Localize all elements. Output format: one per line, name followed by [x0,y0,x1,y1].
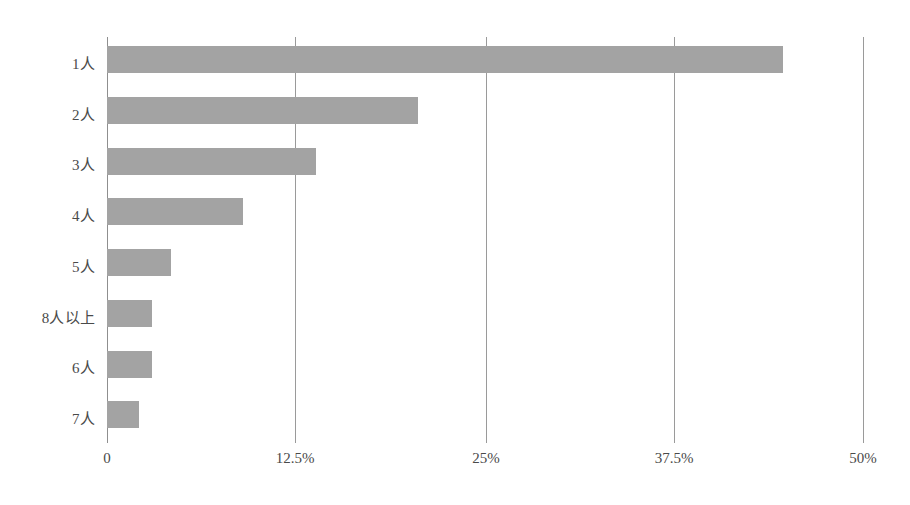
category-label: 3人 [0,139,95,190]
bar-row [107,37,863,88]
bars-layer [107,37,863,443]
x-tick-label-text: 12.5% [276,450,315,466]
bar-3[interactable] [107,148,316,175]
category-label-text: 1人 [72,52,95,73]
category-label-text: 3人 [72,153,95,174]
bar-row [107,88,863,139]
x-tick-label: 12.5% [276,450,315,467]
category-label: 7人 [0,392,95,443]
bar-8[interactable] [107,401,139,428]
category-label-text: 5人 [72,255,95,276]
category-label: 4人 [0,189,95,240]
category-label-text: 7人 [72,407,95,428]
category-label: 2人 [0,88,95,139]
category-label-text: 8人以上 [42,306,95,327]
category-axis: 1人 2人 3人 4人 5人 8人以上 6人 7人 [0,37,95,443]
category-label-text: 2人 [72,103,95,124]
x-tick-label: 37.5% [655,450,694,467]
bar-2[interactable] [107,97,418,124]
gridline-50 [863,37,864,443]
bar-4[interactable] [107,198,243,225]
x-tick-label-text: 50% [849,450,877,466]
category-label-text: 4人 [72,204,95,225]
bar-row [107,342,863,393]
x-tick-label: 50% [849,450,877,467]
bar-5[interactable] [107,249,171,276]
bar-chart: 1人 2人 3人 4人 5人 8人以上 6人 7人 0 12.5% 25% 37… [0,0,910,505]
bar-6[interactable] [107,300,152,327]
x-tick-label-text: 25% [472,450,500,466]
bar-row [107,240,863,291]
bar-row [107,291,863,342]
x-tick-label: 0 [103,450,111,467]
bar-row [107,139,863,190]
bar-1[interactable] [107,46,783,73]
category-label: 5人 [0,240,95,291]
x-tick-label-text: 37.5% [655,450,694,466]
category-label: 8人以上 [0,291,95,342]
bar-row [107,392,863,443]
bar-7[interactable] [107,351,152,378]
category-label-text: 6人 [72,356,95,377]
category-label: 1人 [0,37,95,88]
category-label: 6人 [0,342,95,393]
bar-row [107,189,863,240]
x-tick-label: 25% [472,450,500,467]
x-tick-label-text: 0 [103,450,111,466]
value-axis: 0 12.5% 25% 37.5% 50% [0,450,910,476]
